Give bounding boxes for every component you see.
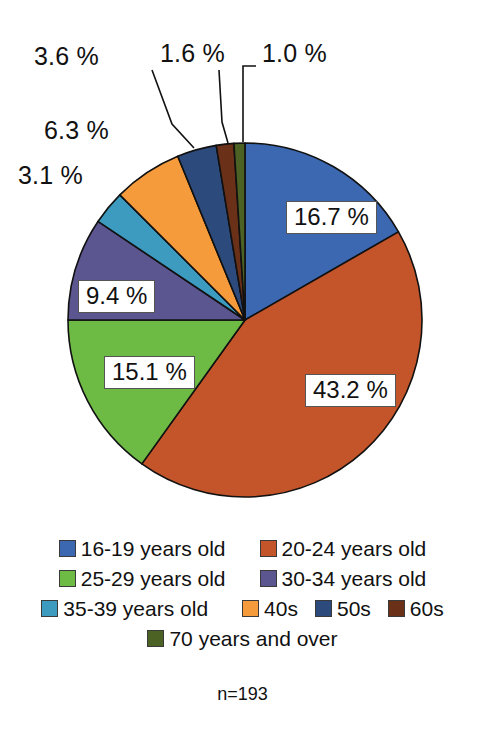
legend-label-70plus: 70 years and over	[169, 628, 337, 649]
legend-swatch-icon-40s	[242, 600, 259, 617]
legend-swatch-icon-60s	[388, 600, 405, 617]
pie-chart-figure: 3.6 % 1.6 % 1.0 % 6.3 % 3.1 % 16.7 % 43.…	[0, 0, 485, 736]
pie-label-35-39: 3.1 %	[18, 163, 83, 188]
legend-label-16-19: 16-19 years old	[81, 538, 226, 559]
pie-label-40s: 6.3 %	[44, 118, 109, 143]
legend-item-50s[interactable]: 50s	[315, 598, 371, 619]
pie-label-20-24: 43.2 %	[305, 374, 396, 407]
legend-item-35-39[interactable]: 35-39 years old	[41, 598, 208, 619]
legend-row-4: 70 years and over	[0, 628, 485, 649]
legend-swatch-icon-16-19	[59, 540, 76, 557]
legend-swatch-icon-25-29	[59, 570, 76, 587]
pie-chart-graphic	[0, 0, 485, 540]
legend-label-50s: 50s	[337, 598, 371, 619]
legend-swatch-icon-35-39	[41, 600, 58, 617]
pie-slices-group	[68, 143, 422, 497]
legend-item-40s[interactable]: 40s	[242, 598, 298, 619]
legend-label-25-29: 25-29 years old	[81, 568, 226, 589]
legend-item-16-19[interactable]: 16-19 years old	[59, 538, 226, 559]
pie-label-16-19: 16.7 %	[286, 201, 377, 234]
pie-label-30-34: 9.4 %	[78, 280, 155, 313]
pie-label-70plus: 1.0 %	[262, 41, 327, 66]
legend-item-70plus[interactable]: 70 years and over	[147, 628, 337, 649]
legend-item-25-29[interactable]: 25-29 years old	[59, 568, 226, 589]
legend-label-30-34: 30-34 years old	[282, 568, 427, 589]
legend-label-40s: 40s	[264, 598, 298, 619]
legend-label-35-39: 35-39 years old	[63, 598, 208, 619]
legend-row-2: 25-29 years old 30-34 years old	[0, 568, 485, 589]
legend-label-20-24: 20-24 years old	[282, 538, 427, 559]
legend-swatch-icon-20-24	[260, 540, 277, 557]
legend-item-30-34[interactable]: 30-34 years old	[260, 568, 427, 589]
legend-label-60s: 60s	[410, 598, 444, 619]
leader-line-50s	[152, 70, 194, 148]
legend-swatch-icon-50s	[315, 600, 332, 617]
chart-legend: 16-19 years old 20-24 years old 25-29 ye…	[0, 538, 485, 658]
legend-item-60s[interactable]: 60s	[388, 598, 444, 619]
leader-lines-group	[152, 66, 256, 148]
pie-label-60s: 1.6 %	[160, 41, 225, 66]
legend-swatch-icon-70plus	[147, 630, 164, 647]
legend-item-20-24[interactable]: 20-24 years old	[260, 538, 427, 559]
sample-size-note: n=193	[0, 684, 485, 705]
legend-row-1: 16-19 years old 20-24 years old	[0, 538, 485, 559]
pie-label-25-29: 15.1 %	[104, 356, 195, 389]
pie-label-50s: 3.6 %	[34, 44, 99, 69]
legend-row-3: 35-39 years old 40s 50s 60s	[0, 598, 485, 619]
legend-swatch-icon-30-34	[260, 570, 277, 587]
leader-line-70plus	[243, 66, 256, 142]
leader-line-60s	[219, 70, 228, 143]
